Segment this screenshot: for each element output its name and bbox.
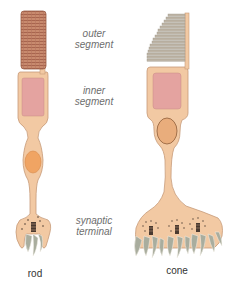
rod-cell	[16, 11, 51, 256]
cone-cell	[135, 13, 223, 258]
label-synaptic-terminal: synaptic terminal	[64, 215, 124, 237]
rod-outer-segment	[21, 11, 46, 69]
cone-outer-segment	[147, 14, 185, 61]
cone-inner-segment	[153, 73, 181, 109]
label-outer-segment: outer segment	[64, 28, 124, 50]
caption-rod: rod	[15, 268, 55, 279]
rod-inner-segment	[22, 78, 44, 116]
caption-cone: cone	[157, 265, 197, 276]
label-synaptic-terminal-line1: synaptic	[64, 215, 124, 226]
label-inner-segment: inner segment	[64, 85, 124, 107]
label-inner-segment-line1: inner	[64, 85, 124, 96]
label-inner-segment-line2: segment	[64, 96, 124, 107]
rod-nucleus	[25, 151, 41, 173]
cone-nucleus	[157, 118, 177, 144]
cone-cilium	[185, 13, 189, 69]
label-outer-segment-line1: outer	[64, 28, 124, 39]
label-synaptic-terminal-line2: terminal	[64, 226, 124, 237]
label-outer-segment-line2: segment	[64, 39, 124, 50]
